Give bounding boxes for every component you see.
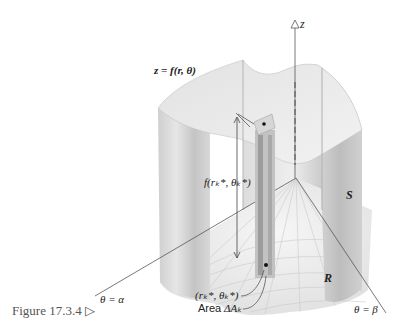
left-wall [158, 108, 210, 300]
area-symbol: ΔAₖ [224, 302, 242, 314]
caption-text: Figure 17.3.4 [12, 303, 82, 318]
area-label: Area ΔAₖ [198, 302, 242, 315]
surface-label: z = f(r, θ) [154, 64, 196, 76]
height-label: f(rₖ*, θₖ*) [204, 176, 251, 189]
area-prefix: Area [198, 302, 221, 314]
z-axis-label: z [300, 17, 305, 32]
region-label: R [324, 271, 332, 286]
ray-alpha-label: θ = α [100, 293, 124, 305]
sample-point-label: (rₖ*, θₖ*) [195, 289, 239, 302]
ray-beta-label: θ = β [354, 303, 378, 315]
z-axis-arrow-icon [291, 20, 299, 28]
sample-point [264, 263, 268, 267]
solid-side-label: S [346, 188, 353, 203]
solid-under-surface-diagram [0, 0, 419, 334]
figure-caption: Figure 17.3.4 ▷ [12, 303, 95, 319]
caption-triangle-icon: ▷ [85, 303, 95, 318]
